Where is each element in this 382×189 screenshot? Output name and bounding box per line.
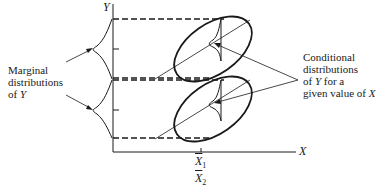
arrow-marginal-upper	[66, 50, 90, 62]
conditional-line-2: distributions	[303, 63, 375, 75]
conditional-line-4: given value of X	[303, 87, 375, 99]
conditional-line-3: of Y for a	[303, 75, 375, 87]
marginal-line-1: Marginal	[8, 64, 63, 76]
arrowhead-marginal-upper	[86, 48, 93, 53]
marginal-var-y: Y	[20, 88, 26, 100]
y-axis-label: Y	[103, 1, 110, 13]
marginal-line-2: distributions	[8, 76, 63, 88]
marginal-distributions-label: Marginal distributions of Y	[8, 64, 63, 100]
conditional-var-x: X	[369, 87, 376, 99]
arrow-marginal-lower	[66, 95, 90, 108]
conditional-line-1: Conditional	[303, 51, 375, 63]
x-bar-2-label: X2	[195, 172, 206, 189]
regression-line-upper	[155, 20, 250, 79]
arrow-conditional-lower	[218, 80, 298, 102]
x-bar-1-label: X1	[195, 155, 206, 172]
conditional-curve-upper	[209, 19, 221, 61]
marginal-curve-upper	[93, 19, 112, 79]
marginal-curve-lower	[93, 80, 112, 138]
x-axis-label: X	[299, 145, 306, 157]
arrowhead-marginal-lower	[86, 105, 93, 110]
conditional-distributions-label: Conditional distributions of Y for a giv…	[303, 51, 375, 99]
arrow-conditional-upper	[218, 45, 298, 80]
arrowhead-conditional-upper	[214, 43, 221, 48]
marginal-line-3: of Y	[8, 88, 63, 100]
regression-line-lower	[155, 80, 250, 139]
